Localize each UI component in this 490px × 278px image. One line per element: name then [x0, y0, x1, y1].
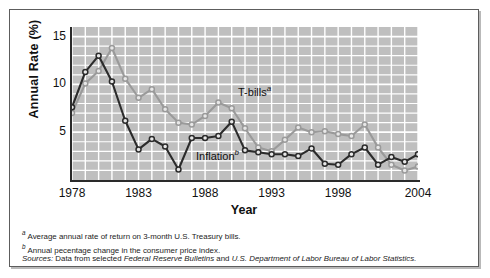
x-tick-1988: 1988 [175, 186, 235, 200]
y-tick-15: 15 [32, 29, 66, 43]
figure-container: Annual Rate (%) 51015 197819831988199319… [0, 0, 490, 278]
series-label-inflation-text: Inflation [196, 150, 235, 162]
x-tick-1998: 1998 [308, 186, 368, 200]
footnotes: aAverage annual rate of return on 3-mont… [22, 228, 472, 256]
series-label-tbills: T-billsa [238, 84, 271, 98]
y-axis-line [70, 27, 72, 180]
x-axis-line [70, 180, 420, 182]
y-tick-10: 10 [32, 76, 66, 90]
series-label-inflation-marker: b [235, 148, 239, 157]
y-axis-title: Annual Rate (%) [27, 0, 41, 144]
plot-svg [72, 27, 418, 180]
sources-text-2: and [214, 254, 232, 263]
sources-text-1: Data from selected [53, 254, 124, 263]
sources-italic-1: Federal Reserve Bulletins [124, 254, 214, 263]
footnote-a-text: Average annual rate of return on 3-month… [28, 232, 241, 241]
y-tick-5: 5 [32, 124, 66, 138]
sources-line: Sources: Data from selected Federal Rese… [22, 254, 474, 263]
x-tick-2004: 2004 [388, 186, 448, 200]
x-tick-1978: 1978 [42, 186, 102, 200]
sources-italic-2: U.S. Department of Labor Bureau of Labor… [232, 254, 417, 263]
x-axis-title: Year [184, 203, 304, 217]
sources-prefix: Sources: [22, 254, 53, 263]
plot-area [72, 27, 418, 180]
footnote-a: aAverage annual rate of return on 3-mont… [22, 228, 472, 242]
series-label-tbills-marker: a [267, 84, 271, 93]
x-tick-1983: 1983 [109, 186, 169, 200]
x-tick-1993: 1993 [242, 186, 302, 200]
series-label-inflation: Inflationb [196, 148, 239, 162]
series-label-tbills-text: T-bills [238, 86, 267, 98]
